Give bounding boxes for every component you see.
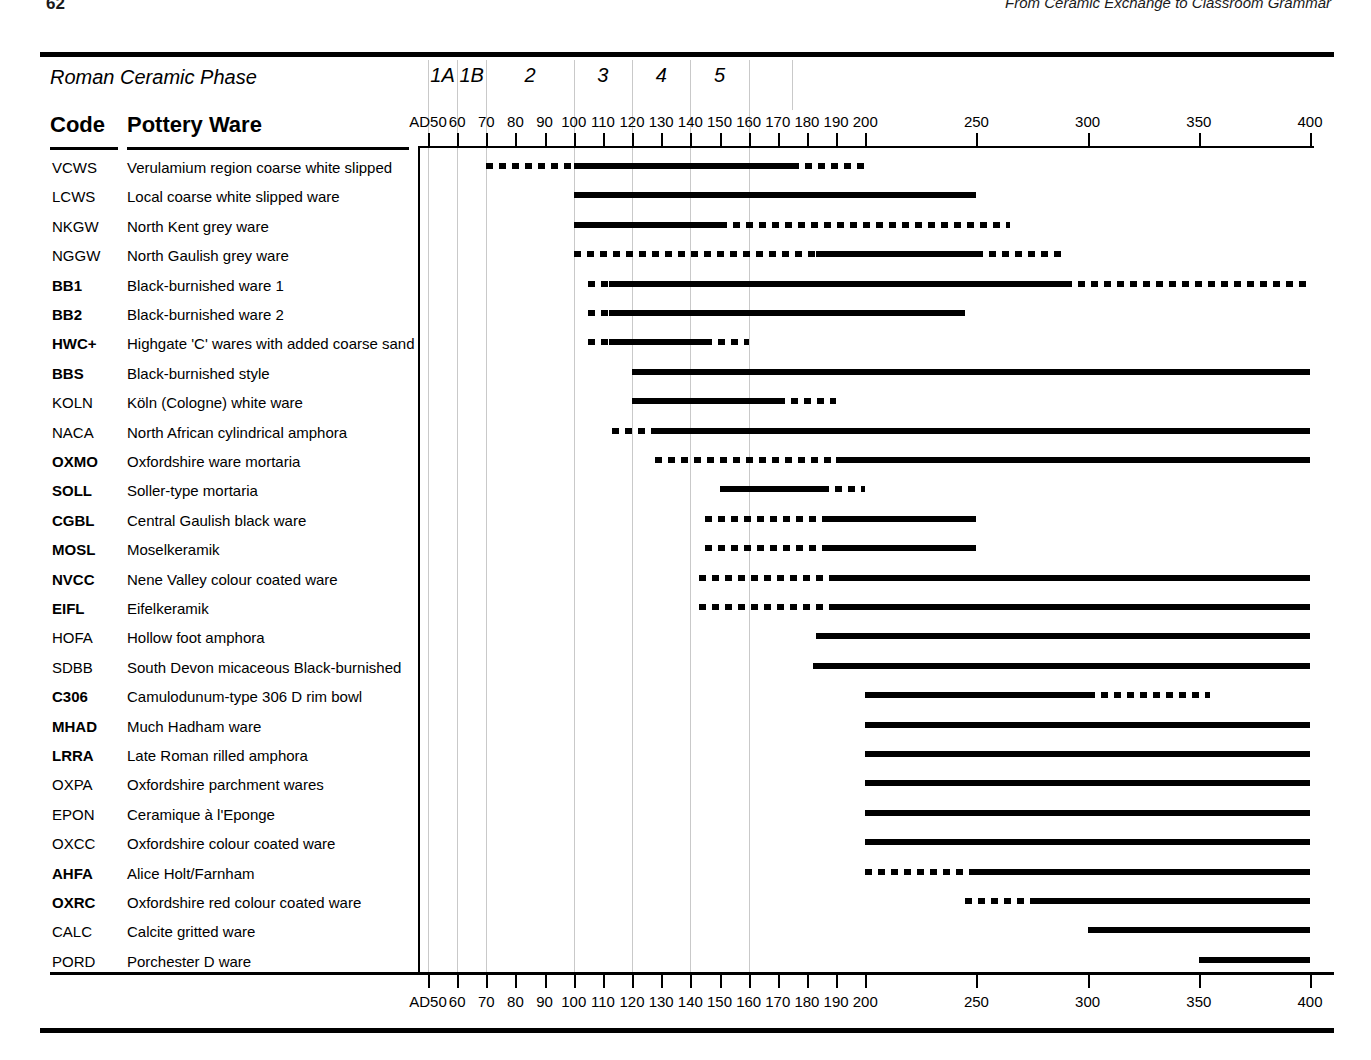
date-range-bar-solid: [574, 222, 720, 228]
phase-label: 4: [656, 64, 667, 87]
table-row[interactable]: NGGWNorth Gaulish grey ware: [0, 240, 1371, 269]
ware-code: HWC+: [52, 335, 97, 352]
date-range-bar-solid: [865, 751, 1310, 757]
date-range-bar-solid: [609, 281, 1066, 287]
table-row[interactable]: NVCCNene Valley colour coated ware: [0, 564, 1371, 593]
ware-code: KOLN: [52, 394, 93, 411]
date-range-bar-dotted: [792, 163, 865, 169]
date-range-bar-dotted: [574, 251, 816, 257]
ware-name: Köln (Cologne) white ware: [127, 394, 303, 411]
date-range-bar-dotted: [588, 339, 608, 345]
ware-code: NVCC: [52, 571, 95, 588]
ware-code: BBS: [52, 365, 84, 382]
axis-tick-label: 150: [707, 113, 732, 130]
table-row[interactable]: LCWSLocal coarse white slipped ware: [0, 181, 1371, 210]
ware-code: BB2: [52, 306, 82, 323]
table-row[interactable]: MOSLMoselkeramik: [0, 534, 1371, 563]
table-row[interactable]: KOLNKöln (Cologne) white ware: [0, 387, 1371, 416]
axis-tick-label: 350: [1186, 113, 1211, 130]
phase-label: 1B: [459, 64, 483, 87]
date-range-bar-dotted: [705, 516, 822, 522]
axis-tick-label: 140: [678, 113, 703, 130]
axis-tick: [865, 975, 867, 988]
axis-tick: [574, 133, 576, 147]
table-row[interactable]: OXMOOxfordshire ware mortaria: [0, 446, 1371, 475]
axis-tick: [865, 133, 867, 147]
ware-name: Oxfordshire ware mortaria: [127, 453, 300, 470]
table-row[interactable]: NKGWNorth Kent grey ware: [0, 211, 1371, 240]
table-row[interactable]: NACANorth African cylindrical amphora: [0, 417, 1371, 446]
table-row[interactable]: OXRCOxfordshire red colour coated ware: [0, 887, 1371, 916]
ware-code: OXRC: [52, 894, 95, 911]
table-row[interactable]: VCWSVerulamium region coarse white slipp…: [0, 152, 1371, 181]
ware-code: C306: [52, 688, 88, 705]
table-row[interactable]: EPONCeramique à l'Eponge: [0, 799, 1371, 828]
axis-tick-label: 60: [449, 113, 466, 130]
ware-code: OXMO: [52, 453, 98, 470]
date-range-bar-solid: [1199, 957, 1310, 963]
table-row[interactable]: EIFLEifelkeramik: [0, 593, 1371, 622]
axis-tick-label: 140: [678, 993, 703, 1010]
ware-name: Oxfordshire red colour coated ware: [127, 894, 361, 911]
axis-tick-label: 400: [1297, 113, 1322, 130]
table-row[interactable]: OXCCOxfordshire colour coated ware: [0, 828, 1371, 857]
date-range-bar-solid: [865, 839, 1310, 845]
axis-tick: [749, 133, 751, 147]
axis-tick-label: 170: [765, 993, 790, 1010]
ware-code: HOFA: [52, 629, 93, 646]
table-row[interactable]: HOFAHollow foot amphora: [0, 622, 1371, 651]
ware-code: VCWS: [52, 159, 97, 176]
axis-tick: [1310, 133, 1312, 147]
table-row[interactable]: SOLLSoller-type mortaria: [0, 475, 1371, 504]
axis-tick: [661, 133, 663, 147]
date-range-bar-dotted: [612, 428, 653, 434]
axis-tick: [515, 133, 517, 147]
table-row[interactable]: BB1Black-burnished ware 1: [0, 270, 1371, 299]
axis-tick-label: 180: [794, 113, 819, 130]
table-row[interactable]: MHADMuch Hadham ware: [0, 711, 1371, 740]
table-row[interactable]: PORDPorchester D ware: [0, 946, 1371, 975]
table-row[interactable]: SDBBSouth Devon micaceous Black-burnishe…: [0, 652, 1371, 681]
table-row[interactable]: OXPAOxfordshire parchment wares: [0, 769, 1371, 798]
date-range-bar-dotted: [965, 898, 1032, 904]
axis-tick: [545, 133, 547, 147]
table-row[interactable]: LRRALate Roman rilled amphora: [0, 740, 1371, 769]
axis-tick-label: 80: [507, 113, 524, 130]
ware-name: Nene Valley colour coated ware: [127, 571, 338, 588]
axis-tick-label: 130: [649, 993, 674, 1010]
axis-tick-label: 400: [1297, 993, 1322, 1010]
axis-tick-label: 100: [561, 113, 586, 130]
table-row[interactable]: C306Camulodunum-type 306 D rim bowl: [0, 681, 1371, 710]
table-row[interactable]: BBSBlack-burnished style: [0, 358, 1371, 387]
axis-tick-label: 200: [853, 113, 878, 130]
date-range-bar-solid: [836, 457, 1310, 463]
ware-code: LRRA: [52, 747, 94, 764]
table-row[interactable]: CALCCalcite gritted ware: [0, 916, 1371, 945]
ware-name: Alice Holt/Farnham: [127, 865, 255, 882]
date-range-bar-dotted: [588, 310, 608, 316]
ware-name: North Gaulish grey ware: [127, 247, 289, 264]
axis-tick-label: 180: [794, 993, 819, 1010]
table-row[interactable]: AHFAAlice Holt/Farnham: [0, 858, 1371, 887]
date-range-bar-solid: [632, 398, 778, 404]
ware-name: Oxfordshire parchment wares: [127, 776, 324, 793]
date-range-bar-solid: [609, 339, 705, 345]
axis-tick-label: 70: [478, 113, 495, 130]
axis-tick-label: 60: [449, 993, 466, 1010]
axis-tick: [778, 133, 780, 147]
date-range-bar-solid: [836, 575, 1310, 581]
table-row[interactable]: HWC+Highgate 'C' wares with added coarse…: [0, 328, 1371, 357]
date-range-bar-solid: [574, 163, 793, 169]
date-range-bar-solid: [720, 486, 822, 492]
table-row[interactable]: BB2Black-burnished ware 2: [0, 299, 1371, 328]
date-range-bar-solid: [822, 545, 977, 551]
axis-tick: [632, 975, 634, 988]
date-range-bar-dotted: [865, 869, 976, 875]
axis-tick: [976, 975, 978, 988]
axis-tick-label: 90: [536, 993, 553, 1010]
axis-tick: [1088, 133, 1090, 147]
axis-tick-label: 190: [824, 113, 849, 130]
table-row[interactable]: CGBLCentral Gaulish black ware: [0, 505, 1371, 534]
phase-gridline: [792, 60, 793, 110]
date-range-bar-solid: [609, 310, 966, 316]
